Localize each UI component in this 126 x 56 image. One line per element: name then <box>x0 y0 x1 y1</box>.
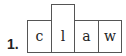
letter-box: c <box>27 20 52 53</box>
letter: l <box>52 29 74 43</box>
letter: c <box>28 29 51 43</box>
letter: w <box>99 29 121 43</box>
letter-box: a <box>74 20 99 53</box>
letter-box-tall: l <box>51 4 75 53</box>
letter-box: w <box>98 20 122 53</box>
item-number: 1. <box>7 37 19 51</box>
letter: a <box>75 29 98 43</box>
